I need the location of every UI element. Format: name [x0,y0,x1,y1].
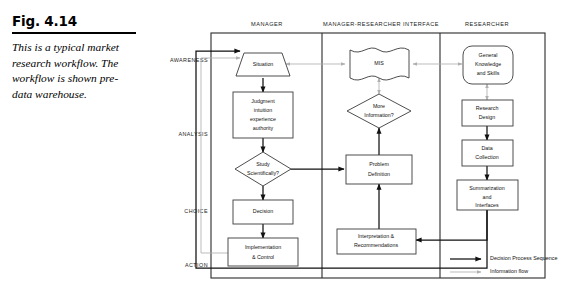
column-header-researcher: RESEARCHER [465,21,509,27]
node-data-collection[interactable]: Data Collection [462,140,513,166]
svg-text:Situation: Situation [253,61,274,67]
workflow-diagram: MANAGER MANAGER-RESEARCHER INTERFACE RES… [0,0,563,299]
legend: Decision Process Sequence Information fl… [450,255,557,274]
svg-text:authority: authority [253,125,274,131]
seq-summarization-interpretation [416,210,487,240]
node-more-information[interactable]: More Information? [347,94,411,128]
svg-text:Interfaces: Interfaces [475,202,499,208]
svg-text:General: General [479,52,498,58]
svg-text:MIS: MIS [374,60,384,66]
legend-item-decision-sequence: Decision Process Sequence [450,255,557,261]
svg-text:Decision Process Sequence: Decision Process Sequence [490,255,557,261]
svg-text:Information?: Information? [364,112,393,118]
svg-text:More: More [373,103,385,109]
column-header-interface: MANAGER-RESEARCHER INTERFACE [323,21,439,27]
svg-text:Data: Data [481,145,492,151]
svg-text:Problem: Problem [369,161,389,167]
svg-text:Judgment: Judgment [251,98,275,104]
svg-text:Design: Design [479,114,496,120]
svg-text:Decision: Decision [253,208,273,214]
svg-text:Knowledge: Knowledge [475,61,501,67]
node-problem-definition[interactable]: Problem Definition [346,155,412,184]
svg-text:and Skills: and Skills [477,70,500,76]
svg-text:Scientifically?: Scientifically? [247,170,279,176]
svg-text:Definition: Definition [368,171,390,177]
svg-text:Interpretation &: Interpretation & [358,233,395,239]
svg-text:Information flow: Information flow [490,268,528,274]
node-interpretation-recommendations[interactable]: Interpretation & Recommendations [337,229,416,254]
node-mis[interactable]: MIS [350,48,409,80]
node-decision[interactable]: Decision [233,200,293,224]
node-implementation-control[interactable]: Implementation & Control [228,238,298,266]
column-header-manager: MANAGER [251,21,283,27]
legend-item-information-flow: Information flow [450,268,528,274]
svg-text:Summarization: Summarization [469,185,504,191]
figure-root: Fig. 4.14 This is a typical market resea… [0,0,563,299]
node-summarization-interfaces[interactable]: Summarization and Interfaces [457,180,518,210]
node-judgment[interactable]: Judgment intuition experience authority [233,92,293,138]
svg-text:& Control: & Control [252,254,274,260]
svg-text:experience: experience [250,116,276,122]
svg-text:Recommendations: Recommendations [354,242,399,248]
node-situation[interactable]: Situation [236,53,290,76]
svg-text:Collection: Collection [475,154,498,160]
svg-text:Implementation: Implementation [245,244,281,250]
node-research-design[interactable]: Research Design [462,100,513,126]
svg-text:and: and [483,194,492,200]
node-study-scientifically[interactable]: Study Scientifically? [235,152,291,186]
node-general-knowledge-skills[interactable]: General Knowledge and Skills [463,46,513,84]
svg-text:Research: Research [476,105,499,111]
svg-text:intuition: intuition [254,107,272,113]
svg-text:Study: Study [256,161,270,167]
